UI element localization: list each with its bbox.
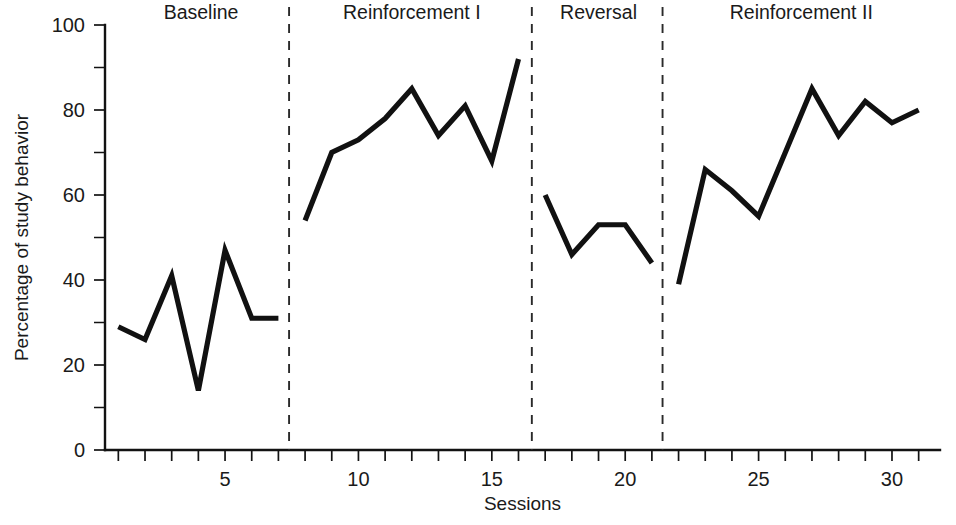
x-axis-title: Sessions bbox=[484, 493, 561, 514]
chart-background bbox=[0, 0, 956, 525]
x-tick-label: 5 bbox=[219, 468, 230, 490]
y-tick-label: 40 bbox=[63, 269, 85, 291]
y-tick-label: 20 bbox=[63, 354, 85, 376]
phase-label: Baseline bbox=[164, 1, 239, 23]
phase-label: Reinforcement II bbox=[730, 1, 873, 23]
line-chart: 020406080100 51015202530 BaselineReinfor… bbox=[0, 0, 956, 525]
x-tick-label: 10 bbox=[347, 468, 369, 490]
phase-label: Reversal bbox=[560, 1, 637, 23]
x-tick-label: 25 bbox=[747, 468, 769, 490]
x-tick-label: 30 bbox=[881, 468, 903, 490]
x-tick-label: 20 bbox=[614, 468, 636, 490]
phase-label: Reinforcement I bbox=[343, 1, 481, 23]
y-axis-title: Percentage of study behavior bbox=[11, 113, 32, 361]
y-tick-label: 60 bbox=[63, 184, 85, 206]
y-tick-label: 80 bbox=[63, 99, 85, 121]
y-tick-label: 0 bbox=[74, 439, 85, 461]
chart-figure: 020406080100 51015202530 BaselineReinfor… bbox=[0, 0, 956, 525]
y-tick-label: 100 bbox=[52, 14, 85, 36]
x-tick-label: 15 bbox=[481, 468, 503, 490]
